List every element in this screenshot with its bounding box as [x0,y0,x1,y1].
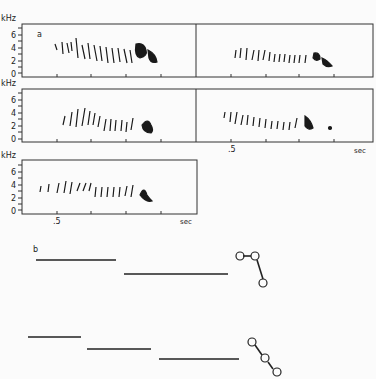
svg-text:2: 2 [11,57,16,66]
spectrogram-ink-row1-right [235,48,332,67]
svg-text:6: 6 [11,31,16,40]
x-unit-label-row2: sec [354,147,366,155]
x-tick-label-row2: .5 [228,145,236,154]
y-axis-row2 [18,93,22,139]
diagram-b-top [36,252,267,287]
spectrogram-row1 [22,24,373,77]
spectrogram-ink-row2-left [63,108,153,133]
y-axis-row3 [18,165,22,210]
spectrogram-ink-row3-left [40,181,152,201]
y-unit-label-row1: kHz [1,14,16,23]
x-tick-label-row3: .5 [53,217,61,226]
y-unit-label-row2: kHz [1,79,16,88]
y-unit-label-row3: kHz [1,151,16,160]
svg-text:0: 0 [11,207,16,216]
svg-text:4: 4 [11,109,16,118]
svg-text:6: 6 [11,96,16,105]
svg-text:2: 2 [11,122,16,131]
x-unit-label-row3: sec [180,218,192,226]
diagram-b-bottom [28,337,281,376]
spectrogram-row2 [22,89,373,142]
svg-text:4: 4 [11,181,16,190]
svg-text:0: 0 [11,135,16,144]
y-axis-row1 [18,28,22,73]
spectrogram-ink-row2-right [224,112,332,130]
svg-text:2: 2 [11,194,16,203]
spectrogram-ink-row1-left [55,38,157,63]
panel-a-label: a [37,30,42,39]
y-tick-labels: 6 4 2 0 6 4 2 0 6 4 2 0 [11,31,16,216]
svg-text:4: 4 [11,44,16,53]
svg-text:6: 6 [11,168,16,177]
svg-text:0: 0 [11,70,16,79]
panel-b-label: b [33,245,38,254]
figure-canvas: kHz kHz kHz 6 4 2 0 6 4 2 0 6 4 2 0 a .5… [0,0,376,379]
